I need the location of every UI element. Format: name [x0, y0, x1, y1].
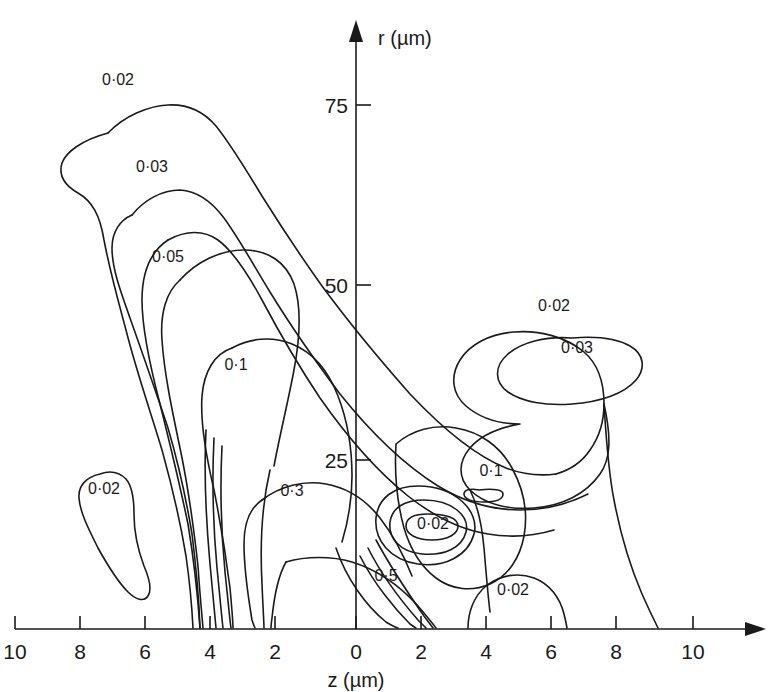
contour-path-005-upper-left	[142, 240, 200, 628]
contour-plot-figure: 10 8 6 4 2 0 2 4 6 8 10 z (µm) 75 50 25 …	[0, 0, 781, 692]
contour-path-03-left-core	[244, 500, 262, 628]
contour-label-5: 0·02	[88, 480, 120, 497]
contour-path-05-bottom-left	[271, 562, 286, 628]
contour-path-01-left-core	[202, 348, 233, 628]
contour-path-01-left-core-right	[232, 339, 352, 542]
contour-path-005-upper-left-right	[168, 233, 554, 537]
contour-path-right-connector	[470, 490, 490, 612]
x-tick-label-10: 10	[681, 640, 704, 663]
x-tick-label-7: 4	[480, 640, 492, 663]
x-tick-label-2: 6	[139, 640, 151, 663]
contour-label-7: 0·03	[561, 339, 593, 356]
contour-path-002-right-blob	[454, 332, 609, 509]
contour-label-9: 0·02	[417, 515, 449, 532]
contour-path-05-bottom	[286, 558, 436, 629]
contour-label-10: 0·5	[374, 567, 397, 584]
contour-path-002-center-loop	[395, 427, 525, 589]
y-tick-label-0: 75	[325, 94, 348, 117]
contour-label-0: 0·02	[102, 71, 134, 88]
x-tick-label-1: 8	[74, 640, 86, 663]
contour-label-3: 0·1	[224, 356, 247, 373]
contour-path-steep-left-3	[221, 446, 231, 628]
contour-label-1: 0·03	[136, 158, 168, 175]
x-tick-label-5: 0	[350, 640, 362, 663]
y-tick-label-1: 50	[325, 274, 348, 297]
contour-path-002-upper-left	[61, 133, 193, 628]
y-tick-label-2: 25	[325, 449, 348, 472]
y-axis-ticks	[356, 105, 371, 460]
axes: 10 8 6 4 2 0 2 4 6 8 10 z (µm) 75 50 25 …	[3, 20, 766, 691]
contour-level-labels: 0·02 0·03 0·05 0·1 0·3 0·02 0·02 0·03 0·…	[88, 71, 593, 598]
x-tick-label-6: 2	[415, 640, 427, 663]
contour-label-11: 0·02	[497, 581, 529, 598]
contour-label-6: 0·02	[538, 297, 570, 314]
x-axis-title: z (µm)	[327, 669, 384, 691]
contour-curves	[61, 105, 658, 628]
contour-path-steep-right-2	[368, 548, 426, 628]
x-tick-label-0: 10	[3, 640, 26, 663]
x-tick-label-4: 2	[269, 640, 281, 663]
contour-label-8: 0·1	[479, 462, 502, 479]
contour-path-002-right-sweep	[556, 404, 604, 474]
contour-path-right-outer-descent	[604, 404, 658, 628]
contour-path-003-upper-left-right	[132, 190, 588, 510]
x-axis-arrow-icon	[745, 622, 766, 636]
contour-label-4: 0·3	[280, 482, 303, 499]
contour-label-2: 0·05	[152, 248, 184, 265]
x-axis-ticks	[15, 616, 693, 629]
y-axis-arrow-icon	[349, 20, 363, 42]
x-tick-label-8: 6	[545, 640, 557, 663]
x-tick-label-9: 8	[610, 640, 622, 663]
x-tick-label-3: 4	[204, 640, 216, 663]
contour-path-03-lower-left	[261, 470, 270, 628]
y-axis-title: r (µm)	[378, 27, 432, 49]
